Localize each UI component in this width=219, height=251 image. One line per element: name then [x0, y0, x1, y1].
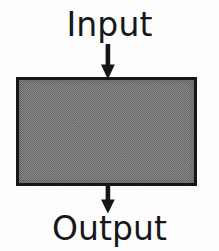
process-box [16, 77, 197, 186]
input-label: Input [0, 8, 219, 41]
arrow-down-icon-input [0, 44, 219, 80]
output-label: Output [0, 212, 219, 245]
block-diagram: Input Output [0, 0, 219, 251]
